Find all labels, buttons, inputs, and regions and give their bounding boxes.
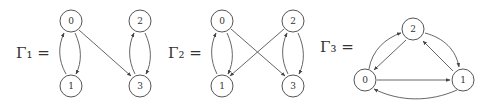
graph-node: 3 xyxy=(129,75,151,97)
svg-text:1: 1 xyxy=(68,81,74,91)
edge-2-to-1 xyxy=(230,29,284,76)
svg-text:1: 1 xyxy=(219,81,225,91)
svg-text:0: 0 xyxy=(219,16,225,26)
svg-text:2: 2 xyxy=(290,16,296,26)
graph-node: 2 xyxy=(402,18,424,40)
graph-node: 0 xyxy=(60,10,82,32)
graph-node: 0 xyxy=(354,69,376,91)
graph-label-gamma-3: Γ₃ = xyxy=(320,38,354,56)
graph-node: 2 xyxy=(129,10,151,32)
edge-0-to-3 xyxy=(79,30,131,76)
graph-node: 1 xyxy=(60,75,82,97)
graph-diagram: Γ₁ = 0 1 2 3 Γ₂ = 0 1 2 3 Γ₃ = xyxy=(0,0,495,109)
svg-text:3: 3 xyxy=(137,81,143,91)
edge-2-to-3 xyxy=(145,33,150,74)
edge-0-to-1 xyxy=(75,33,80,74)
graph-label-gamma-2: Γ₂ = xyxy=(168,44,202,62)
graph-node: 1 xyxy=(211,75,233,97)
graph-node: 0 xyxy=(211,10,233,32)
edge-2-to-1 xyxy=(425,33,459,67)
edge-0-to-1 xyxy=(227,33,232,74)
graph-gamma-2: Γ₂ = 0 1 2 3 xyxy=(168,10,304,97)
svg-text:1: 1 xyxy=(460,75,466,85)
edge-1-to-0 xyxy=(374,89,457,99)
edge-2-to-0 xyxy=(374,40,406,70)
graph-node: 1 xyxy=(452,69,474,91)
graph-label-gamma-1: Γ₁ = xyxy=(16,44,50,62)
edge-3-to-2 xyxy=(283,33,288,74)
svg-text:2: 2 xyxy=(137,16,143,26)
graph-gamma-3: Γ₃ = 0 1 2 xyxy=(320,18,474,99)
svg-text:3: 3 xyxy=(290,81,296,91)
graph-node: 2 xyxy=(282,10,304,32)
edge-0-to-2 xyxy=(369,33,401,69)
edge-0-to-3 xyxy=(231,29,285,76)
edge-1-to-0 xyxy=(212,33,217,74)
svg-text:2: 2 xyxy=(410,24,416,34)
edge-2-to-3 xyxy=(298,33,303,74)
svg-text:0: 0 xyxy=(362,75,368,85)
graph-gamma-1: Γ₁ = 0 1 2 3 xyxy=(16,10,151,97)
edge-1-to-0 xyxy=(60,33,66,74)
graph-node: 3 xyxy=(282,75,304,97)
svg-text:0: 0 xyxy=(68,16,74,26)
edge-3-to-2 xyxy=(130,33,135,74)
